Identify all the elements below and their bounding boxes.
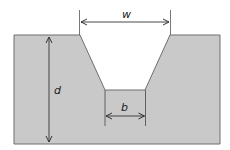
ground-section [14,35,220,144]
w-label: w [122,8,131,21]
d-label: d [54,84,62,97]
b-label: b [121,101,128,114]
channel-diagram: w d b [0,0,230,150]
